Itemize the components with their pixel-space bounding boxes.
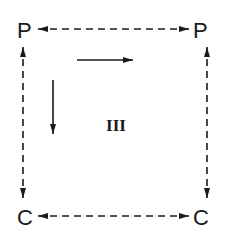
node-bottom-left-label: C (17, 205, 33, 230)
node-bottom-right-label: C (193, 205, 209, 230)
center-roman-numeral: III (106, 116, 126, 135)
pc-square-diagram: P P C C III (0, 0, 227, 235)
node-top-right-label: P (193, 18, 208, 43)
node-top-left-label: P (17, 18, 32, 43)
